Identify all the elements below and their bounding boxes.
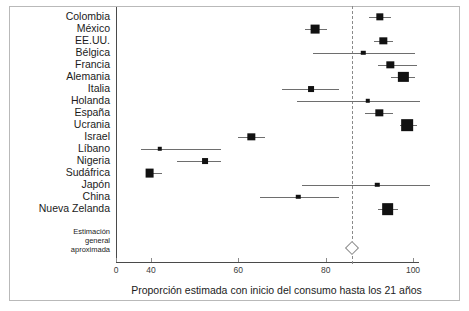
x-tick-label-80: 80 [321,265,330,275]
point-marker [376,109,383,116]
x-tick-label-0: 0 [114,265,119,275]
point-marker [380,37,387,44]
overall-label-line: aproximada [71,245,110,254]
x-tick-0 [116,258,117,262]
x-tick-40 [151,258,152,262]
point-marker [145,169,154,178]
plot-area: 0406080100ColombiaMéxicoEE.UU.BélgicaFra… [0,0,469,311]
point-marker [202,158,208,164]
confidence-interval [302,185,431,186]
point-marker [398,72,408,82]
point-marker [248,133,255,140]
x-tick-100 [413,258,414,262]
point-marker [158,147,162,151]
x-tick-80 [326,258,327,262]
overall-label-line: Estimación [71,227,110,236]
point-marker [296,195,300,199]
row-label-israel: Israel [84,131,110,142]
forest-plot-figure: 0406080100ColombiaMéxicoEE.UU.BélgicaFra… [0,0,469,311]
overall-label-line: general [71,236,110,245]
overall-estimate-label: Estimacióngeneralaproximada [71,227,110,254]
row-label-m-xico: México [77,23,110,34]
row-label-nueva-zelanda: Nueva Zelanda [39,203,110,214]
point-marker [311,25,320,34]
point-marker [382,203,394,215]
reference-line [352,6,353,264]
row-label-ee-uu-: EE.UU. [75,35,110,46]
overall-estimate-diamond [345,241,359,255]
row-label-china: China [83,191,110,202]
row-label-ucrania: Ucrania [74,119,110,130]
x-tick-label-60: 60 [234,265,243,275]
row-label-espa-a: España [74,107,110,118]
x-tick-label-40: 40 [146,265,155,275]
y-axis-line [116,7,117,262]
x-axis-title: Proporción estimada con inicio del consu… [131,284,422,296]
row-label-alemania: Alemania [66,71,110,82]
row-label-holanda: Holanda [71,95,110,106]
row-label-jap-n: Japón [81,179,110,190]
row-label-italia: Italia [88,83,110,94]
row-label-l-bano: Líbano [78,143,110,154]
x-axis-line [116,262,419,263]
confidence-interval [297,101,419,102]
row-label-colombia: Colombia [66,11,110,22]
point-marker [366,99,370,103]
point-marker [361,51,365,55]
confidence-interval [141,149,221,150]
point-marker [376,13,383,20]
x-tick-label-100: 100 [406,265,420,275]
point-marker [375,183,379,187]
point-marker [308,86,314,92]
row-label-francia: Francia [75,59,110,70]
point-marker [401,119,413,131]
x-tick-60 [238,258,239,262]
row-label-nigeria: Nigeria [77,155,110,166]
row-label-sud-frica: Sudáfrica [66,167,110,178]
row-label-b-lgica: Bélgica [76,47,110,58]
confidence-interval [378,65,417,66]
point-marker [387,61,394,68]
confidence-interval [177,161,221,162]
